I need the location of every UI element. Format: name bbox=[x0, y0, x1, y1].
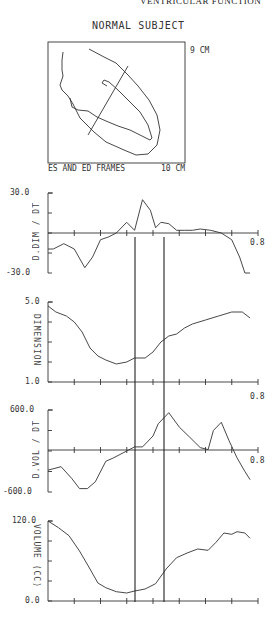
data-series-line bbox=[48, 306, 250, 364]
figure-canvas bbox=[0, 0, 279, 618]
data-series-line bbox=[48, 413, 250, 489]
data-series-line bbox=[48, 521, 250, 593]
data-series-line bbox=[48, 200, 250, 273]
frame-panel-box bbox=[48, 42, 185, 163]
chart-2 bbox=[48, 302, 258, 385]
chart-stack bbox=[48, 193, 258, 604]
chart-3 bbox=[48, 410, 258, 492]
chart-1 bbox=[48, 193, 258, 273]
chart-4 bbox=[48, 521, 258, 604]
ventricle-outline bbox=[60, 49, 160, 155]
